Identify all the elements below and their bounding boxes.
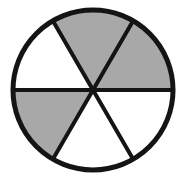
- figure-container: [0, 0, 176, 178]
- sixths-circle-diagram: [0, 0, 176, 178]
